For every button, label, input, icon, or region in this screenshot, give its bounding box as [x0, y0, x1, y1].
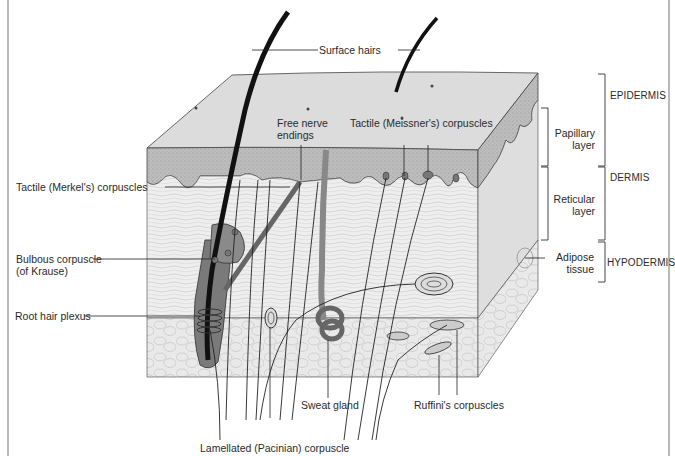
label-adipose-1: Adipose: [548, 251, 594, 263]
label-reticular-1: Reticular: [553, 193, 595, 205]
skin-surface: [147, 72, 538, 150]
label-free-nerve-endings-2: endings: [277, 129, 314, 141]
label-papillary-1: Papillary: [553, 127, 595, 139]
layer-dermis: DERMIS: [610, 172, 650, 183]
label-reticular-2: layer: [553, 205, 595, 217]
label-root-hair-plexus: Root hair plexus: [15, 310, 91, 322]
label-pacinian: Lamellated (Pacinian) corpuscle: [200, 442, 349, 454]
layer-epidermis: EPIDERMIS: [610, 90, 666, 101]
label-meissner: Tactile (Meissner's) corpuscles: [350, 117, 493, 129]
label-krause-1: Bulbous corpuscle: [16, 253, 102, 265]
label-krause-2: (of Krause): [16, 265, 68, 277]
label-ruffini: Ruffini's corpuscles: [414, 399, 504, 411]
skin-receptors-figure: Surface hairs Free nerve endings Tactile…: [0, 0, 675, 456]
label-free-nerve-endings-1: Free nerve: [277, 117, 328, 129]
label-surface-hairs: Surface hairs: [319, 44, 381, 56]
label-merkel: Tactile (Merkel's) corpuscles: [16, 181, 148, 193]
label-adipose-2: tissue: [548, 263, 594, 275]
layer-hypodermis: HYPODERMIS: [607, 257, 675, 268]
skin-block-illustration: [0, 0, 675, 456]
label-papillary-2: layer: [553, 139, 595, 151]
label-sweat-gland: Sweat gland: [301, 399, 359, 411]
